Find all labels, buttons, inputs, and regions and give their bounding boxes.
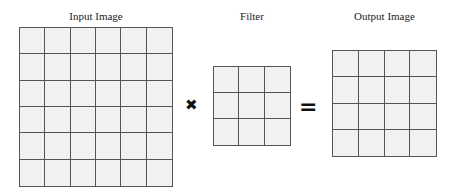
filter-grid: [213, 66, 291, 146]
grid-cell: [96, 133, 121, 159]
grid-cell: [45, 28, 70, 54]
input-image-title: Input Image: [19, 10, 173, 22]
grid-cell: [71, 28, 96, 54]
grid-cell: [20, 28, 45, 54]
grid-cell: [20, 160, 45, 186]
output-image-title: Output Image: [332, 10, 437, 22]
grid-cell: [239, 93, 264, 119]
grid-cell: [239, 119, 264, 145]
grid-cell: [71, 107, 96, 133]
grid-cell: [121, 133, 146, 159]
grid-cell: [147, 133, 172, 159]
grid-cell: [239, 67, 264, 93]
grid-cell: [265, 67, 290, 93]
grid-cell: [359, 104, 385, 130]
grid-cell: [121, 107, 146, 133]
grid-cell: [121, 28, 146, 54]
grid-cell: [147, 28, 172, 54]
grid-cell: [20, 107, 45, 133]
grid-cell: [71, 133, 96, 159]
grid-cell: [359, 51, 385, 77]
grid-cell: [96, 81, 121, 107]
grid-cell: [214, 67, 239, 93]
grid-cell: [385, 51, 411, 77]
grid-cell: [20, 133, 45, 159]
input-image-grid: [19, 27, 173, 187]
grid-cell: [147, 54, 172, 80]
grid-cell: [385, 104, 411, 130]
grid-cell: [71, 81, 96, 107]
grid-cell: [359, 77, 385, 103]
grid-cell: [333, 104, 359, 130]
grid-cell: [45, 81, 70, 107]
grid-cell: [147, 160, 172, 186]
grid-cell: [333, 77, 359, 103]
grid-cell: [385, 130, 411, 156]
grid-cell: [96, 107, 121, 133]
output-image-grid: [332, 50, 437, 157]
grid-cell: [45, 107, 70, 133]
grid-cell: [214, 119, 239, 145]
grid-cell: [96, 160, 121, 186]
grid-cell: [121, 160, 146, 186]
grid-cell: [410, 51, 436, 77]
grid-cell: [147, 81, 172, 107]
grid-cell: [45, 54, 70, 80]
grid-cell: [45, 160, 70, 186]
grid-cell: [96, 54, 121, 80]
grid-cell: [20, 81, 45, 107]
grid-cell: [385, 77, 411, 103]
grid-cell: [214, 93, 239, 119]
grid-cell: [410, 130, 436, 156]
equals-icon: =: [299, 96, 317, 118]
grid-cell: [410, 77, 436, 103]
grid-cell: [121, 81, 146, 107]
grid-cell: [71, 54, 96, 80]
grid-cell: [45, 133, 70, 159]
grid-cell: [96, 28, 121, 54]
grid-cell: [333, 130, 359, 156]
grid-cell: [410, 104, 436, 130]
grid-cell: [333, 51, 359, 77]
grid-cell: [359, 130, 385, 156]
multiply-icon: ✖: [185, 98, 198, 113]
grid-cell: [20, 54, 45, 80]
grid-cell: [71, 160, 96, 186]
grid-cell: [147, 107, 172, 133]
grid-cell: [121, 54, 146, 80]
grid-cell: [265, 93, 290, 119]
filter-title: Filter: [213, 10, 291, 22]
grid-cell: [265, 119, 290, 145]
